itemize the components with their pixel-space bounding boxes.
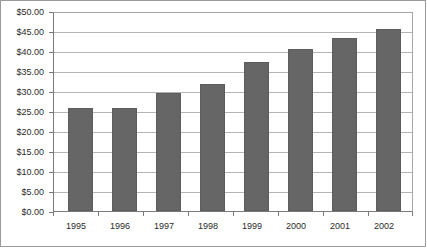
y-axis-label: $40.00 <box>16 47 44 57</box>
gridline <box>54 152 412 153</box>
x-axis-label-1998: 1998 <box>186 221 230 232</box>
x-axis-label-1999: 1999 <box>230 221 274 232</box>
y-axis-label: $50.00 <box>16 7 44 17</box>
x-axis-tick <box>278 212 279 216</box>
gridline <box>54 92 412 93</box>
gridline <box>54 112 412 113</box>
x-axis-tick <box>98 212 99 216</box>
y-axis-label: $45.00 <box>16 27 44 37</box>
x-axis-label-1997: 1997 <box>142 221 186 232</box>
x-axis-tick <box>412 212 413 216</box>
x-axis-tick <box>53 212 54 216</box>
bar-2000 <box>288 49 313 211</box>
gridline <box>54 172 412 173</box>
y-axis-label: $20.00 <box>16 127 44 137</box>
bar-2001 <box>332 38 357 211</box>
gridline <box>54 132 412 133</box>
y-axis-label: $10.00 <box>16 167 44 177</box>
x-axis-tick <box>143 212 144 216</box>
x-axis-tick <box>368 212 369 216</box>
x-axis-label-2001: 2001 <box>318 221 362 232</box>
y-axis-label: $30.00 <box>16 87 44 97</box>
gridline <box>54 72 412 73</box>
x-axis-tick <box>323 212 324 216</box>
x-axis-label-1995: 1995 <box>54 221 98 232</box>
chart-frame: $50.00 $45.00 $40.00 $35.00 $30.00 $25.0… <box>0 0 426 247</box>
gridline <box>54 192 412 193</box>
bar-1999 <box>244 62 269 211</box>
y-axis-label: $35.00 <box>16 67 44 77</box>
bar-1996 <box>112 108 137 211</box>
y-axis-label: $15.00 <box>16 147 44 157</box>
bar-chart: $50.00 $45.00 $40.00 $35.00 $30.00 $25.0… <box>0 0 427 248</box>
y-axis-label: $5.00 <box>21 187 44 197</box>
x-axis-label-1996: 1996 <box>98 221 142 232</box>
bar-1998 <box>200 84 225 211</box>
bar-2002 <box>376 29 401 211</box>
x-axis-label-2000: 2000 <box>274 221 318 232</box>
gridline <box>54 32 412 33</box>
x-axis-tick <box>233 212 234 216</box>
gridline <box>54 52 412 53</box>
plot-area <box>53 12 413 212</box>
x-axis-tick <box>188 212 189 216</box>
x-axis-label-2002: 2002 <box>362 221 406 232</box>
bar-1995 <box>68 108 93 211</box>
y-axis-label: $0.00 <box>21 207 44 217</box>
bar-1997 <box>156 93 181 211</box>
y-axis-label: $25.00 <box>16 107 44 117</box>
